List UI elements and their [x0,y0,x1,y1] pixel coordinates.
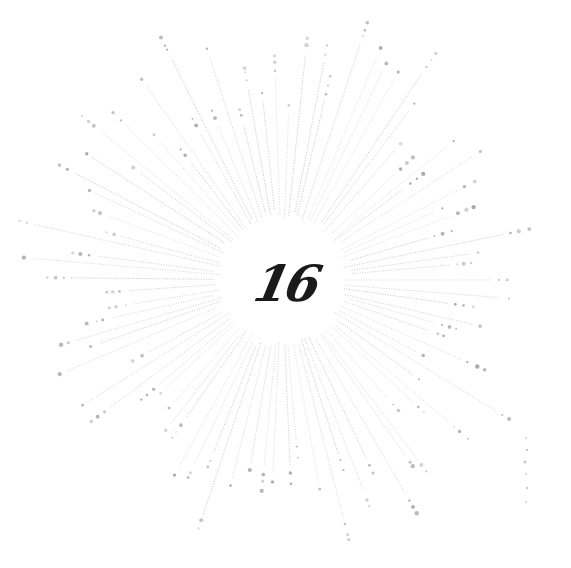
center-number: 16 [219,252,353,316]
edge-dots [520,430,532,510]
